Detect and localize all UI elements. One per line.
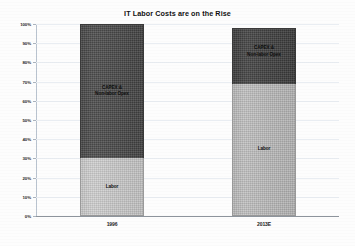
category-label-2013e: 2013E	[232, 221, 296, 227]
bar-1996[interactable]: CAPEX & Non-labor Opex Labor	[80, 24, 144, 216]
bar-1996-capex-label-line2: Non-labor Opex	[81, 92, 143, 99]
tick-40	[33, 139, 36, 140]
tick-20	[33, 178, 36, 179]
tick-50	[33, 120, 36, 121]
tick-0	[33, 216, 36, 217]
ytick-label-0: 0%	[25, 214, 31, 219]
bar-1996-labor-label: Labor	[81, 183, 143, 190]
category-label-1996: 1996	[80, 221, 144, 227]
bar-2013e-capex-label-line2: Non-labor Opex	[233, 52, 295, 59]
ytick-label-50: 50%	[23, 118, 32, 123]
gridline-0: 0%	[36, 216, 339, 217]
bar-1996-capex-label: CAPEX & Non-labor Opex	[81, 85, 143, 98]
bar-2013e-segment-labor[interactable]: Labor	[232, 84, 296, 216]
ytick-label-90: 90%	[23, 41, 32, 46]
bar-2013e[interactable]: CAPEX & Non-labor Opex Labor	[232, 28, 296, 216]
tick-60	[33, 101, 36, 102]
ytick-label-80: 80%	[23, 60, 32, 65]
ytick-label-10: 10%	[23, 194, 32, 199]
tick-90	[33, 43, 36, 44]
bar-1996-segment-labor[interactable]: Labor	[80, 158, 144, 216]
bar-1996-capex-label-line1: CAPEX &	[81, 85, 143, 92]
plot-area: 100% 90% 80% 70% 60% 50% 40% 30%	[36, 24, 339, 217]
bar-2013e-segment-capex[interactable]: CAPEX & Non-labor Opex	[232, 28, 296, 84]
ytick-label-100: 100%	[20, 22, 31, 27]
ytick-label-70: 70%	[23, 79, 32, 84]
bar-2013e-capex-label: CAPEX & Non-labor Opex	[233, 45, 295, 58]
tick-30	[33, 158, 36, 159]
tick-80	[33, 62, 36, 63]
tick-100	[33, 24, 36, 25]
ytick-label-60: 60%	[23, 98, 32, 103]
ytick-label-20: 20%	[23, 175, 32, 180]
tick-10	[33, 197, 36, 198]
chart-figure: IT Labor Costs are on the Rise 100% 90% …	[0, 0, 355, 246]
bar-2013e-labor-label: Labor	[233, 146, 295, 153]
chart-title: IT Labor Costs are on the Rise	[0, 9, 355, 18]
bar-1996-segment-capex[interactable]: CAPEX & Non-labor Opex	[80, 24, 144, 158]
bar-2013e-capex-label-line1: CAPEX &	[233, 45, 295, 52]
ytick-label-40: 40%	[23, 137, 32, 142]
ytick-label-30: 30%	[23, 156, 32, 161]
tick-70	[33, 82, 36, 83]
